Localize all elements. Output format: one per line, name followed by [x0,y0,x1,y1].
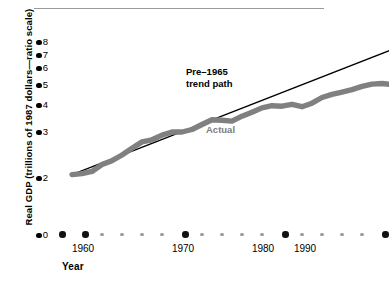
x-tick-label-1990: 1990 [285,243,325,254]
x-axis-origin-dot [59,231,66,238]
x-tick-dot-minor [160,233,163,236]
x-tick-dot-minor [220,233,223,236]
x-tick-dot-1980 [282,231,289,238]
x-tick-dot-minor [120,233,123,236]
x-tick-label-1980: 1980 [243,243,283,254]
x-tick-dot-1970 [182,231,189,238]
x-tick-dot-minor [140,233,143,236]
x-tick-dot-minor [340,233,343,236]
actual-series-annotation: Actual [206,124,235,136]
x-tick-dot-1960 [82,231,89,238]
x-axis-title: Year [62,261,84,272]
x-tick-dot-minor [100,233,103,236]
x-tick-label-1970: 1970 [163,243,203,254]
x-tick-dot-minor [200,233,203,236]
x-tick-label-1960: 1960 [63,243,103,254]
x-tick-dot-minor [360,233,363,236]
trend-path-annotation: Pre–1965 trend path [186,66,232,89]
x-tick-dot-minor [260,233,263,236]
x-tick-dot-minor [320,233,323,236]
x-tick-dot-1990 [382,231,389,238]
x-tick-dot-minor [300,233,303,236]
x-tick-dot-minor [240,233,243,236]
